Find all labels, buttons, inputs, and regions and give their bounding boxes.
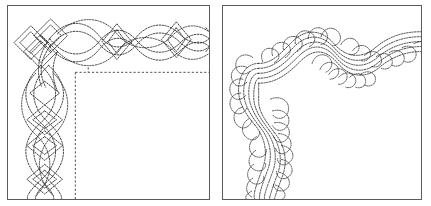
panel-feather-plume-border: .f { fill:none; stroke:#2b2b2b; stroke-w… [222,5,422,200]
feather-plume-svg: .f { fill:none; stroke:#2b2b2b; stroke-w… [223,6,421,199]
top-braid-group [50,20,209,66]
diamond-motif [27,164,63,194]
top-spine-bundle [259,32,421,83]
left-feather-lobes-outer [246,137,267,199]
panel-celtic-knot-border: .st { fill:none; stroke:#2b2b2b; stroke-… [7,5,210,200]
corner-feather-lobes [230,55,260,140]
celtic-knot-svg: .st { fill:none; stroke:#2b2b2b; stroke-… [8,6,209,199]
quilting-pattern-figure: .st { fill:none; stroke:#2b2b2b; stroke-… [0,0,431,206]
celtic-knot-artwork: .st { fill:none; stroke:#2b2b2b; stroke-… [8,6,209,199]
top-feather-lobes-lower [312,55,375,88]
diamond-motif [102,24,132,60]
feather-plume-artwork: .f { fill:none; stroke:#2b2b2b; stroke-w… [223,6,421,199]
